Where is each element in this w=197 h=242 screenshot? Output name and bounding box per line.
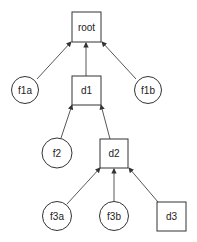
tree-diagram: root f1a d1 f1b f2 d2 f3a f3b d3 [0,0,197,242]
label-f3a: f3a [50,211,64,222]
edge-d3-d2 [129,168,158,202]
edge-f1b-root [102,42,136,79]
edge-f2-d1 [61,105,72,138]
label-f2: f2 [53,148,62,159]
edge-f1a-root [37,42,71,79]
label-f3b: f3b [107,211,121,222]
label-d1: d1 [81,85,93,96]
label-root: root [78,22,95,33]
label-d2: d2 [108,148,120,159]
label-f1a: f1a [18,85,32,96]
label-f1b: f1b [141,85,155,96]
edge-f3a-d2 [67,168,100,204]
label-d3: d3 [166,211,178,222]
edge-d2-d1 [101,105,110,139]
